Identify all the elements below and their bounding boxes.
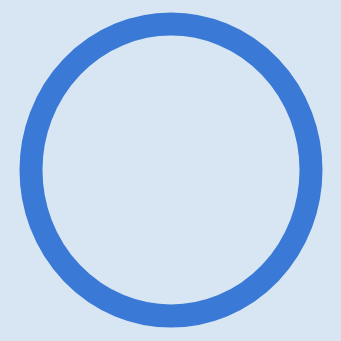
ring-graphic (0, 0, 341, 341)
blue-ring-icon (31, 24, 311, 316)
canvas (0, 0, 341, 341)
